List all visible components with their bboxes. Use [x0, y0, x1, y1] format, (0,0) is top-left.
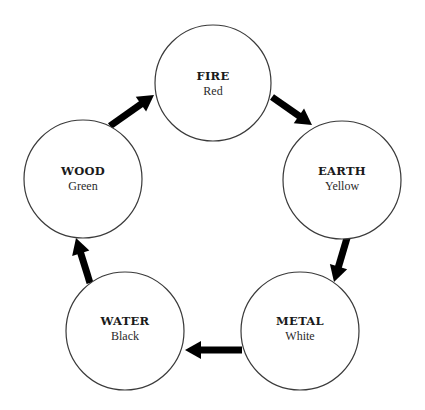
arrowhead-icon [72, 238, 89, 256]
arrow-shaft [272, 97, 300, 116]
wood-color: Green [68, 179, 97, 193]
arrow-shaft [80, 252, 90, 283]
earth-color: Yellow [325, 179, 359, 193]
arrow-metal-to-water [185, 341, 242, 359]
metal-title: METAL [276, 314, 324, 328]
earth-title: EARTH [318, 164, 366, 178]
arrow-water-to-wood [72, 238, 90, 283]
fire-title: FIRE [196, 69, 229, 83]
wood-title: WOOD [60, 164, 105, 178]
water-color: Black [111, 329, 139, 343]
arrow-shaft [110, 104, 142, 126]
node-earth: EARTH Yellow [283, 121, 401, 239]
node-wood: WOOD Green [24, 120, 142, 238]
node-metal: METAL White [241, 272, 359, 390]
arrow-earth-to-metal [330, 238, 347, 282]
water-title: WATER [100, 314, 150, 328]
arrowhead-icon [185, 341, 201, 359]
arrowhead-icon [330, 264, 347, 282]
fire-circle [155, 25, 271, 141]
diagram-canvas: FIRE Red EARTH Yellow METAL White WATER … [0, 0, 425, 410]
node-water: WATER Black [66, 272, 184, 390]
metal-color: White [285, 329, 314, 343]
five-elements-diagram: FIRE Red EARTH Yellow METAL White WATER … [0, 0, 425, 410]
arrow-wood-to-fire [110, 95, 154, 126]
node-fire: FIRE Red [155, 25, 271, 141]
arrow-fire-to-earth [272, 97, 312, 125]
fire-color: Red [203, 84, 222, 98]
arrow-shaft [338, 238, 347, 268]
